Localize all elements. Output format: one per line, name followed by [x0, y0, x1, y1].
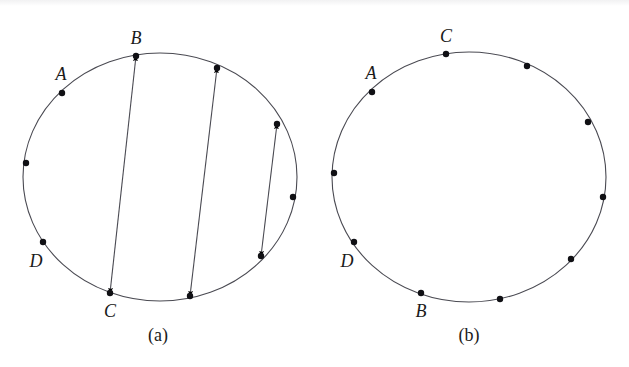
panel-b-vertex-a-dot	[369, 89, 375, 95]
panel-a-circle-outline	[23, 53, 297, 301]
panel-b-vertex-c-label: C	[440, 26, 453, 46]
panel-b-caption: (b)	[459, 325, 480, 346]
panel-a-caption: (a)	[148, 325, 168, 346]
panel-a-vertex-ne-dot	[274, 121, 280, 127]
panel-b-vertex-nne-dot	[524, 63, 530, 69]
panel-a-vertex-b-label: B	[131, 28, 142, 48]
panel-b-vertex-c-dot	[443, 51, 449, 57]
panel-a-vertex-e-dot	[290, 194, 296, 200]
panel-b-vertex-b-label: B	[416, 301, 427, 321]
panel-a: BADC(a)	[23, 28, 297, 346]
panel-a-arrow-ne-se	[261, 124, 277, 256]
panel-b-vertex-w-dot	[331, 170, 337, 176]
figure-canvas: BADC(a)CADB(b)	[0, 0, 629, 367]
panel-b-vertex-d-dot	[351, 239, 357, 245]
panel-b-vertex-s-dot	[497, 296, 503, 302]
panels-layer: BADC(a)CADB(b)	[23, 26, 606, 346]
figure-root: BADC(a)CADB(b)	[0, 0, 629, 367]
panel-a-vertex-a-label: A	[55, 64, 68, 84]
panel-a-vertex-w-dot	[23, 160, 29, 166]
panel-a-vertex-a-dot	[59, 90, 65, 96]
panel-b: CADB(b)	[331, 26, 606, 346]
panel-a-vertex-d-label: D	[29, 251, 43, 271]
panel-b-vertex-e-dot	[600, 194, 606, 200]
panel-a-vertex-s-dot	[187, 293, 193, 299]
panel-a-vertex-nne-dot	[214, 65, 220, 71]
panel-a-vertex-d-dot	[40, 239, 46, 245]
panel-b-vertex-se-dot	[568, 256, 574, 262]
panel-a-vertex-c-dot	[107, 290, 113, 296]
panel-b-vertex-ne-dot	[585, 119, 591, 125]
panel-a-vertex-se-dot	[258, 253, 264, 259]
panel-b-vertex-a-label: A	[365, 63, 378, 83]
panel-a-arrow-b-c	[110, 56, 136, 293]
panel-a-vertex-c-label: C	[104, 301, 117, 321]
panel-a-arrow-n-s	[190, 68, 217, 296]
panel-b-vertex-d-label: D	[340, 251, 354, 271]
panel-b-vertex-b-dot	[418, 290, 424, 296]
panel-a-vertex-b-dot	[133, 53, 139, 59]
